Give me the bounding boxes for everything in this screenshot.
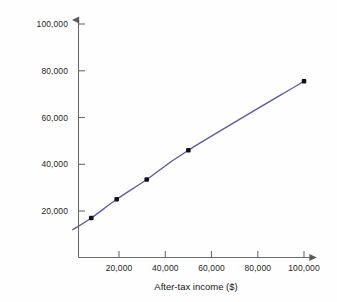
y-tick-label-100000: 100,000 (8, 20, 68, 29)
data-point (302, 79, 307, 84)
data-point (186, 148, 191, 153)
data-point-markers (89, 79, 306, 220)
data-point (144, 177, 149, 182)
y-tick-label-80000: 80,000 (8, 67, 68, 76)
y-tick-label-20000: 20,000 (8, 207, 68, 216)
x-tick-label-100000: 100,000 (288, 264, 319, 273)
x-tick-label-40000: 40,000 (152, 264, 179, 273)
y-tick-label-60000: 60,000 (8, 113, 68, 122)
data-point (89, 216, 94, 221)
trend-line (73, 81, 304, 229)
chart-plot-area (0, 0, 337, 302)
x-tick-label-80000: 80,000 (244, 264, 271, 273)
data-point (114, 197, 119, 202)
x-axis-title: After-tax income ($) (154, 281, 237, 292)
y-tick-label-40000: 40,000 (8, 160, 68, 169)
y-axis-ticks (79, 24, 86, 211)
x-tick-label-20000: 20,000 (106, 264, 133, 273)
chart-container: 100,000 80,000 60,000 40,000 20,000 20,0… (0, 0, 337, 302)
x-tick-label-60000: 60,000 (198, 264, 225, 273)
x-axis-ticks (119, 251, 304, 258)
